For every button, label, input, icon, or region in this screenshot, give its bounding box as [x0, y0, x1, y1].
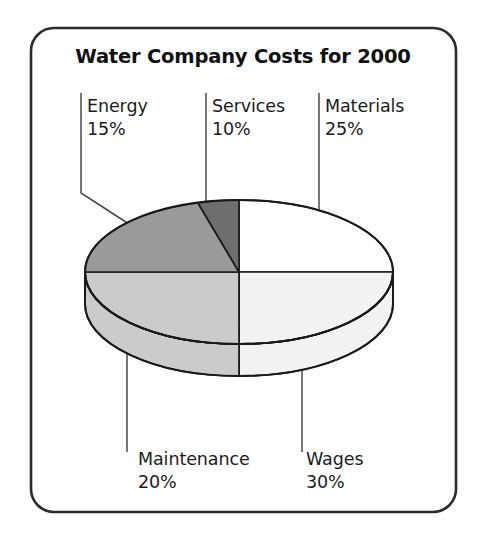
pie-label-services-name: Services — [212, 96, 285, 116]
pie-label-maintenance-name: Maintenance — [138, 449, 250, 469]
pie-3d — [85, 200, 393, 376]
pie-label-maintenance: Maintenance 20% — [138, 448, 250, 494]
pie-label-materials-percent: 25% — [325, 118, 404, 141]
pie-label-materials-name: Materials — [325, 96, 404, 116]
pie-label-energy-percent: 15% — [87, 118, 148, 141]
pie-label-wages-percent: 30% — [306, 471, 363, 494]
pie-label-wages-name: Wages — [306, 449, 363, 469]
pie-label-energy: Energy 15% — [87, 95, 148, 141]
pie-label-energy-name: Energy — [87, 96, 148, 116]
pie-chart-figure: Water Company Costs for 2000 Energy 15% … — [0, 0, 486, 541]
pie-label-maintenance-percent: 20% — [138, 471, 250, 494]
pie-label-wages: Wages 30% — [306, 448, 363, 494]
pie-label-services-percent: 10% — [212, 118, 285, 141]
pie-label-materials: Materials 25% — [325, 95, 404, 141]
page-title: Water Company Costs for 2000 — [0, 45, 486, 68]
pie-label-services: Services 10% — [212, 95, 285, 141]
